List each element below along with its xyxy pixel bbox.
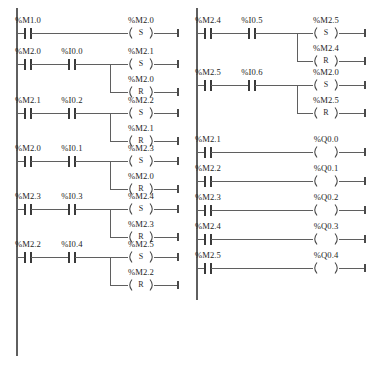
rung-l3-contact-label-1: %I0.2 <box>61 95 82 105</box>
rung-r7-coil-label-0: %Q0.4 <box>314 250 339 260</box>
rung-r1-contact-label-1: %I0.5 <box>241 15 262 25</box>
rung-r2-coil-label-1: %M2.5 <box>313 95 339 105</box>
rung-l6-coil-0-letter: S <box>139 252 143 261</box>
rung-l6-contact-0-no[interactable] <box>25 252 31 263</box>
rung-r5-coil-label-0: %Q0.2 <box>314 192 339 202</box>
rung-r6-coil-0-output[interactable] <box>315 234 338 245</box>
rung-l3-contact-1-no[interactable] <box>69 108 75 119</box>
rung-l1-contact-label-0: %M1.0 <box>15 15 41 25</box>
rung-r3-coil-label-0: %Q0.0 <box>314 134 339 144</box>
rung-l5-coil-label-0: %M2.4 <box>128 191 154 201</box>
rung-l6-contact-1-no[interactable] <box>69 252 75 263</box>
rung-r3-contact-0-no[interactable] <box>205 147 211 158</box>
rung-r5-contact-0-no[interactable] <box>205 205 211 216</box>
rung-r2-contact-0-no[interactable] <box>205 80 211 91</box>
rung-r4-contact-0-no[interactable] <box>205 176 211 187</box>
rung-l4-contact-label-1: %I0.1 <box>61 143 82 153</box>
rung-r1-contact-0-no[interactable] <box>205 28 211 39</box>
rung-r4-contact-label-0: %M2.2 <box>195 163 221 173</box>
rung-r7-contact-0-no[interactable] <box>205 263 211 274</box>
rung-l6-contact-label-0: %M2.2 <box>15 239 41 249</box>
rung-r1-coil-0-letter: S <box>324 28 328 37</box>
rung-l6-coil-1-letter: R <box>138 280 143 289</box>
rung-r6-contact-0-no[interactable] <box>205 234 211 245</box>
rung-l6-contact-label-1: %I0.4 <box>61 239 82 249</box>
rung-l4-coil-label-0: %M2.3 <box>128 143 154 153</box>
rung-l5-coil-0-letter: S <box>139 204 143 213</box>
rung-l3-contact-label-0: %M2.1 <box>15 95 41 105</box>
rung-r3-coil-0-output[interactable] <box>315 147 338 158</box>
rung-l2-coil-0-letter: S <box>139 59 143 68</box>
rung-r2-coil-label-0: %M2.0 <box>313 67 339 77</box>
rung-l2-contact-label-1: %I0.0 <box>61 46 82 56</box>
rung-r2-contact-label-1: %I0.6 <box>241 67 262 77</box>
rung-r1-coil-label-1: %M2.4 <box>313 43 339 53</box>
rung-l1-coil-0-letter: S <box>139 28 143 37</box>
rung-r1-coil-label-0: %M2.5 <box>313 15 339 25</box>
rung-l3-coil-label-0: %M2.2 <box>128 95 154 105</box>
rung-l2-contact-label-0: %M2.0 <box>15 46 41 56</box>
rung-r2-contact-label-0: %M2.5 <box>195 67 221 77</box>
rung-l2-coil-label-0: %M2.1 <box>128 46 154 56</box>
rung-l4-contact-label-0: %M2.0 <box>15 143 41 153</box>
rung-l5-contact-label-1: %I0.3 <box>61 191 82 201</box>
ladder-wiring-layer <box>0 0 378 368</box>
rung-r4-coil-label-0: %Q0.1 <box>314 163 339 173</box>
rung-l4-contact-1-no[interactable] <box>69 156 75 167</box>
rung-l3-coil-label-1: %M2.1 <box>128 123 154 133</box>
rung-r5-coil-0-output[interactable] <box>315 205 338 216</box>
rung-l2-coil-label-1: %M2.0 <box>128 74 154 84</box>
rung-l3-contact-0-no[interactable] <box>25 108 31 119</box>
ladder-diagram-canvas: %M1.0S%M2.0%M2.0%I0.0S%M2.1R%M2.0%M2.1%I… <box>0 0 378 368</box>
rung-r1-contact-label-0: %M2.4 <box>195 15 221 25</box>
rung-l4-coil-label-1: %M2.0 <box>128 171 154 181</box>
rung-r4-coil-0-output[interactable] <box>315 176 338 187</box>
rung-r5-contact-label-0: %M2.3 <box>195 192 221 202</box>
rung-l2-contact-1-no[interactable] <box>69 59 75 70</box>
rung-r2-contact-1-no[interactable] <box>249 80 255 91</box>
rung-l1-contact-0-no[interactable] <box>25 28 31 39</box>
rung-l5-contact-0-no[interactable] <box>25 204 31 215</box>
rung-r2-coil-1-letter: R <box>323 108 328 117</box>
rung-l6-coil-label-1: %M2.2 <box>128 267 154 277</box>
rung-l2-contact-0-no[interactable] <box>25 59 31 70</box>
rung-r6-contact-label-0: %M2.4 <box>195 221 221 231</box>
rung-l4-coil-0-letter: S <box>139 156 143 165</box>
rung-r6-coil-label-0: %Q0.3 <box>314 221 339 231</box>
rung-r1-coil-1-letter: R <box>323 56 328 65</box>
rung-r7-coil-0-output[interactable] <box>315 263 338 274</box>
rung-r3-contact-label-0: %M2.1 <box>195 134 221 144</box>
rung-l5-contact-label-0: %M2.3 <box>15 191 41 201</box>
rung-r7-contact-label-0: %M2.5 <box>195 250 221 260</box>
rung-l1-coil-label-0: %M2.0 <box>128 15 154 25</box>
rung-l5-coil-label-1: %M2.3 <box>128 219 154 229</box>
rung-r2-coil-0-letter: S <box>324 80 328 89</box>
rung-r1-contact-1-no[interactable] <box>249 28 255 39</box>
rung-l3-coil-0-letter: S <box>139 108 143 117</box>
rung-l4-contact-0-no[interactable] <box>25 156 31 167</box>
rung-l5-contact-1-no[interactable] <box>69 204 75 215</box>
rung-l6-coil-label-0: %M2.5 <box>128 239 154 249</box>
